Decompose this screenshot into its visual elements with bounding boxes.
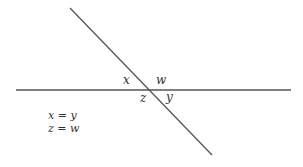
equation-z-equals-w: z = w — [48, 122, 79, 135]
intersecting-lines-diagram — [0, 0, 303, 167]
diagonal-line — [70, 8, 212, 155]
angle-label-z: z — [140, 92, 146, 104]
equations-block: x = y z = w — [48, 109, 79, 135]
angle-label-y: y — [166, 91, 173, 103]
equation-x-equals-y: x = y — [48, 109, 79, 122]
angle-label-w: w — [156, 74, 166, 86]
angle-label-x: x — [123, 74, 130, 86]
